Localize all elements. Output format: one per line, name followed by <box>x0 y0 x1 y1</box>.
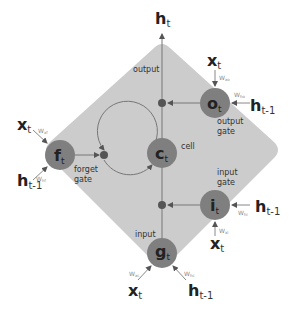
node-o: ot <box>200 88 230 118</box>
input-gate-label-line1: input <box>217 168 238 177</box>
lstm-diagram: ot ct ft it gt ht output cell output gat… <box>0 0 294 313</box>
cell-label: cell <box>181 142 195 151</box>
node-f: ft <box>45 140 75 170</box>
weight-hi: Whi <box>238 209 248 217</box>
weight-xf: Wxf <box>38 127 48 135</box>
node-c: ct <box>147 138 177 168</box>
xt-forget-gate-label: xt <box>17 115 31 135</box>
input-multiply-dot <box>158 201 166 209</box>
forget-gate-label-line1: forget <box>74 165 98 174</box>
hprev-input-label: ht-1 <box>188 281 213 301</box>
xt-input-label: xt <box>128 281 142 301</box>
output-gate-label-line2: gate <box>217 127 235 136</box>
node-g: gt <box>147 238 177 268</box>
weight-hc: Whc <box>184 270 195 278</box>
forget-multiply-dot <box>100 151 108 159</box>
hprev-input-gate-label: ht-1 <box>255 197 280 217</box>
output-h-label: ht <box>155 9 170 29</box>
output-gate-label-line1: output <box>217 117 243 126</box>
weight-ho: Who <box>234 91 245 99</box>
input-gate-label-line2: gate <box>217 178 235 187</box>
forget-gate-label-line2: gate <box>74 175 92 184</box>
xc-arrow <box>138 266 151 280</box>
input-label: input <box>135 230 156 239</box>
output-label: output <box>133 65 159 74</box>
weight-xi: Wxi <box>219 227 228 235</box>
xt-input-gate-label: xt <box>210 234 224 254</box>
hprev-output-gate-label: ht-1 <box>250 96 275 116</box>
output-multiply-dot <box>158 99 166 107</box>
weight-hf: Whf <box>36 175 46 183</box>
node-i: it <box>200 190 230 220</box>
xt-output-gate-label: xt <box>207 51 221 71</box>
weight-xc: Wxc <box>129 270 139 278</box>
weight-xo: Wxo <box>219 74 230 82</box>
